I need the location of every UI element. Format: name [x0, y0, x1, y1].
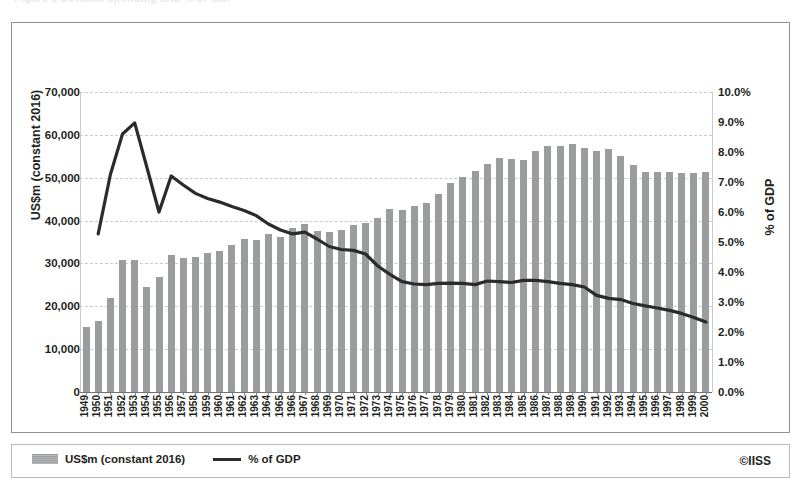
- x-axis-tick: 1985: [519, 395, 526, 417]
- left-axis-tick-labels: 010,00020,00030,00040,00050,00060,00070,…: [8, 0, 80, 490]
- copyright-mark: ©IISS: [739, 454, 771, 468]
- gdp-percent-line: [98, 123, 706, 322]
- x-axis-tick: 1973: [373, 395, 380, 417]
- x-axis-tick: 1963: [251, 395, 258, 417]
- x-axis-tick: 1953: [130, 395, 137, 417]
- right-axis-tick: 2.0%: [718, 326, 778, 338]
- x-axis-tick: 1996: [652, 395, 659, 417]
- right-axis-tick: 9.0%: [718, 116, 778, 128]
- x-axis-tick: 1976: [409, 395, 416, 417]
- line-series: [80, 92, 712, 392]
- left-axis-tick: 10,000: [18, 343, 80, 355]
- x-axis-tick: 1971: [348, 395, 355, 417]
- left-axis-tick: 50,000: [18, 172, 80, 184]
- x-axis-tick: 1960: [215, 395, 222, 417]
- left-axis-tick: 70,000: [18, 86, 80, 98]
- legend-label-bars: US$m (constant 2016): [65, 453, 185, 465]
- x-axis-tick: 1986: [531, 395, 538, 417]
- x-axis-tick: 1982: [482, 395, 489, 417]
- x-axis-tick: 1964: [263, 395, 270, 417]
- x-axis-tick: 1987: [543, 395, 550, 417]
- x-axis-tick: 1961: [227, 395, 234, 417]
- x-axis-tick: 1969: [324, 395, 331, 417]
- x-axis-tick: 1956: [166, 395, 173, 417]
- right-axis-line: [712, 92, 713, 392]
- x-axis-tick: 1978: [434, 395, 441, 417]
- x-axis-tick: 1965: [276, 395, 283, 417]
- legend-label-line: % of GDP: [248, 453, 300, 465]
- x-axis-tick: 1991: [592, 395, 599, 417]
- x-axis-tick: 1980: [458, 395, 465, 417]
- x-axis-tick: 1951: [105, 395, 112, 417]
- x-axis-tick: 1972: [361, 395, 368, 417]
- chart-figure: Figure 1 Defence spending and % of GDP 0…: [0, 0, 802, 490]
- x-axis-tick: 1950: [93, 395, 100, 417]
- left-axis-tick: 0: [18, 386, 80, 398]
- x-axis-tick: 1993: [616, 395, 623, 417]
- x-axis-tick: 1970: [336, 395, 343, 417]
- x-axis-tick: 1949: [81, 395, 88, 417]
- x-axis-line: [80, 392, 712, 393]
- x-axis-tick: 1989: [567, 395, 574, 417]
- left-axis-tick: 60,000: [18, 129, 80, 141]
- left-axis-tick: 30,000: [18, 257, 80, 269]
- x-axis-tick: 1962: [239, 395, 246, 417]
- left-axis-tick: 20,000: [18, 300, 80, 312]
- x-axis-tick: 1954: [142, 395, 149, 417]
- right-axis-tick: 1.0%: [718, 356, 778, 368]
- x-axis-tick: 1959: [203, 395, 210, 417]
- x-axis-tick: 1990: [579, 395, 586, 417]
- x-axis-tick: 1981: [470, 395, 477, 417]
- x-axis-tick: 1952: [118, 395, 125, 417]
- left-axis-title: US$m (constant 2016): [29, 35, 43, 275]
- x-axis-tick-labels: 1949195019511952195319541955195619571958…: [80, 395, 712, 441]
- x-axis-tick: 1992: [604, 395, 611, 417]
- plot-area: [80, 92, 712, 392]
- legend-bar-swatch-icon: [32, 454, 58, 464]
- right-axis-tick: 0.0%: [718, 386, 778, 398]
- x-axis-tick: 1955: [154, 395, 161, 417]
- left-axis-tick: 40,000: [18, 215, 80, 227]
- right-axis-tick: 10.0%: [718, 86, 778, 98]
- x-axis-tick: 1997: [664, 395, 671, 417]
- x-axis-tick: 1967: [300, 395, 307, 417]
- x-axis-tick: 1968: [312, 395, 319, 417]
- right-axis-title: % of GDP: [763, 137, 777, 277]
- x-axis-tick: 1979: [446, 395, 453, 417]
- x-axis-tick: 1984: [506, 395, 513, 417]
- x-axis-tick: 1999: [689, 395, 696, 417]
- x-axis-tick: 1994: [628, 395, 635, 417]
- x-axis-tick: 1995: [640, 395, 647, 417]
- x-axis-tick: 1983: [494, 395, 501, 417]
- x-axis-tick: 1988: [555, 395, 562, 417]
- legend: US$m (constant 2016) % of GDP: [32, 453, 301, 465]
- x-axis-tick: 1977: [421, 395, 428, 417]
- legend-line-swatch-icon: [213, 458, 241, 461]
- x-axis-tick: 1966: [288, 395, 295, 417]
- x-axis-tick: 1958: [190, 395, 197, 417]
- x-axis-tick: 1974: [385, 395, 392, 417]
- x-axis-tick: 2000: [701, 395, 708, 417]
- right-axis-tick: 3.0%: [718, 296, 778, 308]
- x-axis-tick: 1998: [677, 395, 684, 417]
- legend-frame: US$m (constant 2016) % of GDP ©IISS: [11, 444, 790, 478]
- figure-caption: Figure 1 Defence spending and % of GDP: [14, 0, 714, 4]
- x-axis-tick: 1975: [397, 395, 404, 417]
- x-axis-tick: 1957: [178, 395, 185, 417]
